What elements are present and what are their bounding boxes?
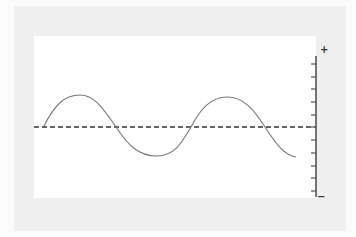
sine-wave [44, 95, 296, 157]
scale-negative-label: − [317, 192, 325, 202]
waveform-diagram [0, 0, 356, 237]
scale-positive-label: + [320, 45, 328, 55]
